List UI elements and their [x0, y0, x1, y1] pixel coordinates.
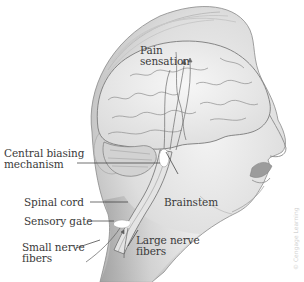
label-spinal-cord: Spinal cord — [24, 197, 84, 208]
label-small-nerve-line2: fibers — [22, 253, 85, 264]
central-biasing-highlight — [159, 149, 169, 167]
copyright-notice: © Cengage Learning — [292, 207, 299, 270]
label-pain-sensation: Pain sensation — [140, 45, 190, 67]
label-brainstem: Brainstem — [164, 197, 218, 208]
diagram-canvas: Pain sensation Central biasing mechanism… — [0, 0, 304, 282]
sensory-gate-highlight — [114, 220, 130, 228]
label-central-biasing-line2: mechanism — [4, 159, 84, 170]
label-pain-sensation-line2: sensation — [140, 56, 190, 67]
label-sensory-gate: Sensory gate — [24, 216, 92, 227]
label-large-nerve-fibers: Large nerve fibers — [136, 235, 200, 257]
label-large-nerve-line2: fibers — [136, 246, 200, 257]
label-central-biasing-mechanism: Central biasing mechanism — [4, 148, 84, 170]
label-small-nerve-fibers: Small nerve fibers — [22, 242, 85, 264]
